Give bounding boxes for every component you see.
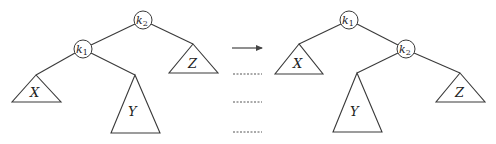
- transform-connector: [232, 48, 262, 132]
- edge-k1-k2: [357, 24, 398, 45]
- subtree-x-label: X: [29, 85, 40, 100]
- subtree-y: [333, 73, 382, 132]
- node-k1: k1: [340, 11, 358, 29]
- subtree-y-label: Y: [128, 104, 138, 119]
- node-k2: k2: [134, 11, 152, 29]
- edge-k1-y: [91, 53, 135, 75]
- edge-k1-x: [36, 53, 75, 75]
- node-k2-sub: 2: [406, 48, 411, 57]
- edge-k1-x: [299, 24, 341, 44]
- node-k1-sub: 1: [83, 48, 88, 57]
- node-k2-sub: 2: [143, 19, 148, 28]
- edge-k2-k1: [91, 24, 135, 45]
- node-k2: k2: [397, 40, 415, 58]
- node-k1: k1: [74, 40, 92, 58]
- rotation-diagram: X Y Z k2 k1 X Y Z k1: [0, 0, 496, 144]
- edge-k2-y: [357, 53, 398, 73]
- subtree-z-label: Z: [454, 85, 465, 100]
- node-k1-sub: 1: [349, 19, 354, 28]
- edge-k2-z: [151, 24, 193, 44]
- edge-k2-z: [414, 53, 460, 73]
- subtree-z-label: Z: [187, 56, 198, 71]
- tree-before: X Y Z k2 k1: [12, 11, 218, 133]
- subtree-y-label: Y: [350, 104, 360, 119]
- subtree-x-label: X: [292, 56, 303, 71]
- tree-after: X Y Z k1 k2: [275, 11, 485, 132]
